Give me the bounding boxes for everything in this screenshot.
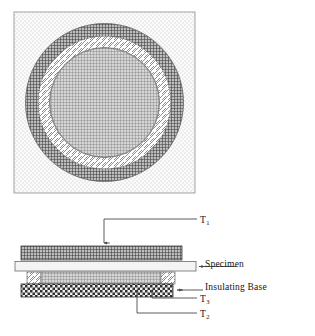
top-heater-plate xyxy=(21,246,182,260)
insulating-base-block xyxy=(21,284,173,297)
cross-section-view xyxy=(15,246,196,297)
guard-spacer-left xyxy=(27,272,41,284)
circular-plan-view xyxy=(14,12,195,193)
thermal-conductivity-apparatus-figure xyxy=(0,0,315,336)
guard-spacer-right xyxy=(161,272,175,284)
label-t2-subscript: 2 xyxy=(206,313,209,320)
label-insulating-base: Insulating Base xyxy=(205,282,267,292)
specimen-plate xyxy=(15,262,196,272)
label-t3-subscript: 3 xyxy=(206,298,209,305)
label-t1: T1 xyxy=(200,215,209,225)
label-t2: T2 xyxy=(200,309,209,319)
label-specimen: Specimen xyxy=(205,259,244,269)
label-t1-subscript: 1 xyxy=(206,219,209,226)
lower-heater-plate xyxy=(41,272,161,284)
leader-t1 xyxy=(104,219,197,243)
main-heater-disc xyxy=(50,48,159,157)
label-t3: T3 xyxy=(200,294,209,304)
